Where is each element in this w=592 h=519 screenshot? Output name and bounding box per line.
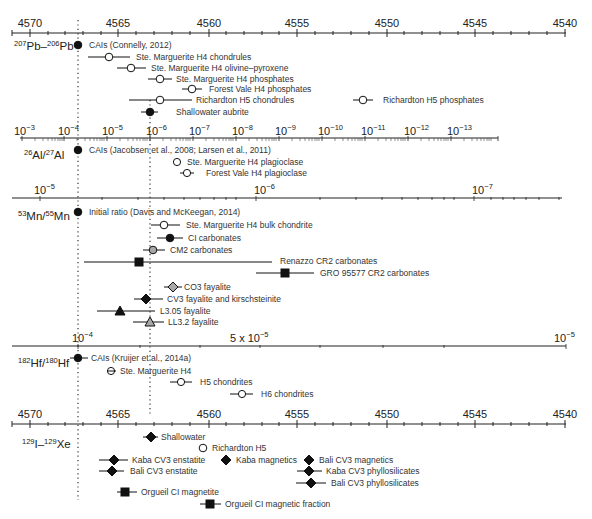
point-label: Shallowater aubrite xyxy=(176,107,249,117)
point-label: CM2 carbonates xyxy=(170,245,232,255)
point-label: Bali CV3 enstatite xyxy=(130,466,198,476)
tick-label: 10−4 xyxy=(72,330,93,344)
bottom-age-axis: 4570 4565 4560 4555 4550 4545 4540 xyxy=(12,408,577,428)
point-label: CAIs (Kruijer et al., 2014a) xyxy=(91,353,191,363)
point-label: Forest Vale H4 plagioclase xyxy=(206,168,307,178)
top-age-axis: 4570 4565 4560 4555 4550 4545 4540 xyxy=(12,17,577,37)
tick-label: 4540 xyxy=(553,408,577,420)
point-label: Ste. Marguerite H4 chondrules xyxy=(136,52,251,62)
tick-label: 10−10 xyxy=(318,123,343,137)
point-label: Renazzo CR2 carbonates xyxy=(280,256,377,266)
system-label-ixe: 129I–129Xe xyxy=(22,437,71,450)
point-label: GRO 95577 CR2 carbonates xyxy=(320,268,429,278)
tick-label: 10−6 xyxy=(146,123,167,137)
tick-label: 4560 xyxy=(197,17,221,29)
point-label: Initial ratio (Davis and McKeegan, 2014) xyxy=(89,207,240,217)
point-label: Richardton H5 xyxy=(212,443,267,453)
point-label: CV3 fayalite and kirschsteinite xyxy=(167,294,281,304)
tick-label: 10−7 xyxy=(472,182,493,196)
point-label: Shallowater xyxy=(161,432,206,442)
point-label: L3.05 fayalite xyxy=(160,306,211,316)
tick-label: 4555 xyxy=(285,408,309,420)
tick-label: 10−7 xyxy=(189,123,210,137)
tick-label: 10−5 xyxy=(554,330,575,344)
point-label: CI carbonates xyxy=(188,233,241,243)
tick-label: 10−3 xyxy=(14,123,35,137)
tick-label: 4550 xyxy=(375,408,399,420)
tick-label: 4555 xyxy=(285,17,309,29)
point-label: CAIs (Jacobsen et al., 2008; Larsen et a… xyxy=(89,145,271,155)
tick-label: 10−13 xyxy=(447,123,472,137)
tick-label: 4570 xyxy=(18,408,42,420)
point-label: Kaba magnetics xyxy=(236,455,297,465)
tick-label: 4540 xyxy=(553,17,577,29)
system-label-pb: 207Pb–206Pb xyxy=(14,39,74,52)
point-label: CAIs (Connelly, 2012) xyxy=(89,40,172,50)
point-label: Orgueil CI magnetite xyxy=(141,487,219,497)
point-label: Forest Vale H4 phosphates xyxy=(209,84,311,94)
tick-label: 10−9 xyxy=(275,123,296,137)
tick-label: 10−6 xyxy=(254,182,275,196)
tick-label: 10−5 xyxy=(102,123,123,137)
point-label: H6 chondrites xyxy=(261,389,313,399)
point-label: Richardton H5 phosphates xyxy=(383,95,484,105)
al-log-axis: 10−3 10−4 10−5 10−6 10−7 10−8 10−9 10−10… xyxy=(14,123,498,141)
point-label: Richardton H5 chondrules xyxy=(196,95,294,105)
point-label: LL3.2 fayalite xyxy=(168,317,219,327)
tick-label: 10−12 xyxy=(404,123,429,137)
system-label-al: 26Al/27Al xyxy=(24,148,64,161)
tick-label: 10−4 xyxy=(58,123,79,137)
tick-label: 5 x 10−5 xyxy=(230,330,269,344)
point-label: Kaba CV3 enstatite xyxy=(132,455,206,465)
system-label-mn: 53Mn/55Mn xyxy=(18,209,70,222)
point-label: H5 chondrites xyxy=(200,377,252,387)
tick-label: 4560 xyxy=(197,408,221,420)
point-label: Bali CV3 magnetics xyxy=(319,455,393,465)
tick-label: 4545 xyxy=(463,17,487,29)
point-label: CO3 fayalite xyxy=(184,282,231,292)
point-label: Ste. Marguerite H4 olivine–pyroxene xyxy=(151,63,289,73)
tick-label: 4565 xyxy=(106,17,130,29)
point-label: Kaba CV3 phyllosilicates xyxy=(326,466,420,476)
point-label: Orgueil CI magnetic fraction xyxy=(225,499,331,509)
tick-label: 10−5 xyxy=(34,182,55,196)
point-label: Ste. Marguerite H4 phosphates xyxy=(176,74,294,84)
hf-linear-axis: 10−4 5 x 10−5 10−5 xyxy=(12,330,575,349)
tick-label: 10−11 xyxy=(361,123,385,137)
tick-label: 4550 xyxy=(375,17,399,29)
tick-label: 4565 xyxy=(106,408,130,420)
mn-log-axis: 10−5 10−6 10−7 xyxy=(12,182,562,201)
point-label: Ste. Marguerite H4 plagioclase xyxy=(187,157,304,167)
point-label: Bali CV3 phyllosilicates xyxy=(331,478,419,488)
tick-label: 4545 xyxy=(463,408,487,420)
point-label: Ste. Marguerite H4 bulk chondrite xyxy=(186,220,313,230)
point-label: Ste. Marguerite H4 xyxy=(120,366,192,376)
system-label-hf: 182Hf/180Hf xyxy=(18,356,70,369)
tick-label: 4570 xyxy=(18,17,42,29)
tick-label: 10−8 xyxy=(232,123,253,137)
chronology-chart: 4570 4565 4560 4555 4550 4545 4540 207Pb… xyxy=(0,0,592,519)
